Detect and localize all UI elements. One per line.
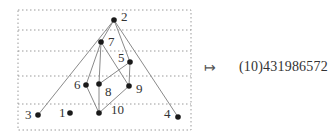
node-dot <box>35 112 41 118</box>
node-label: 5 <box>118 50 125 65</box>
node-dot <box>96 110 102 116</box>
node-label: 3 <box>25 107 32 122</box>
nodes: 12345678910 <box>25 9 181 122</box>
node-9: 9 <box>126 81 142 96</box>
node-label: 1 <box>59 105 66 120</box>
node-dot <box>98 39 104 45</box>
edge-2-3 <box>38 20 114 115</box>
node-label: 4 <box>164 106 171 121</box>
node-dot <box>96 81 102 87</box>
edge-5-9 <box>129 62 130 86</box>
node-6: 6 <box>74 77 89 92</box>
node-dot <box>175 114 181 120</box>
node-3: 3 <box>25 107 41 122</box>
node-10: 10 <box>96 102 124 117</box>
edge-7-6 <box>86 42 101 85</box>
node-label: 7 <box>108 34 115 49</box>
node-1: 1 <box>59 105 73 120</box>
node-label: 9 <box>136 81 143 96</box>
node-dot <box>111 17 117 23</box>
edge-6-10 <box>86 85 99 113</box>
node-dot <box>83 82 89 88</box>
node-label: 10 <box>111 102 124 117</box>
node-2: 2 <box>111 9 127 24</box>
permutation-result: (10)431986572 <box>239 59 328 75</box>
node-label: 6 <box>74 77 81 92</box>
node-5: 5 <box>118 50 133 65</box>
maps-to-arrow-icon: ↦ <box>204 59 216 75</box>
node-8: 8 <box>96 81 111 99</box>
node-dot <box>126 83 132 89</box>
node-dot <box>127 59 133 65</box>
node-label: 2 <box>121 9 128 24</box>
node-label: 8 <box>105 84 112 99</box>
node-dot <box>67 110 73 116</box>
